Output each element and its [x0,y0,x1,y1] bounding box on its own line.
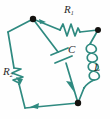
node-right [95,27,101,33]
label-r1-symbol: R [64,3,71,15]
label-r1: R1 [64,4,74,16]
wire-left-lower [19,84,25,108]
wire-group [8,19,98,108]
node-bottom [75,100,81,106]
label-l: L [94,62,100,73]
label-r2-symbol: R [3,65,10,77]
resistor-r1-symbol [60,24,80,36]
label-c: C [68,44,75,55]
wire-top-left [8,19,33,32]
node-top-left [30,16,36,22]
circuit-diagram: R1 R2 C L [0,0,110,119]
label-r1-subscript: 1 [71,10,74,16]
label-l-symbol: L [94,61,100,73]
label-r2-subscript: 2 [10,72,13,78]
circuit-schematic-canvas [0,0,110,119]
label-r2: R2 [3,66,13,78]
label-c-symbol: C [68,43,75,55]
arrow-capacitor-branch [66,81,74,92]
wire-left-upper [8,32,14,68]
